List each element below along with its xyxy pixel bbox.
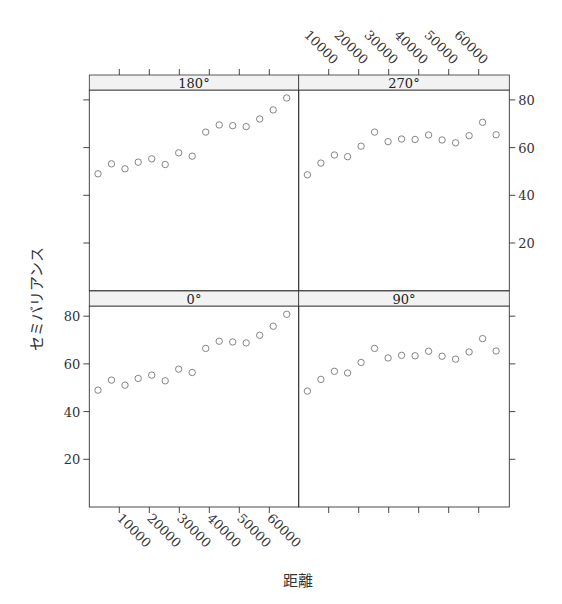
data-point — [493, 132, 499, 138]
data-point — [371, 129, 377, 135]
y-tick-label: 80 — [518, 93, 535, 108]
data-point — [466, 349, 472, 355]
data-point — [270, 323, 276, 329]
data-point — [331, 152, 337, 158]
panel-strips: 180°270°0°90° — [89, 75, 509, 307]
data-point — [149, 372, 155, 378]
panel-frame-top-left — [89, 90, 298, 291]
data-point — [243, 340, 249, 346]
data-point — [466, 132, 472, 138]
points-top-right — [304, 119, 499, 178]
panel-frame-bottom-left — [89, 306, 298, 507]
y-tick-label: 20 — [64, 452, 81, 467]
strip-label: 0° — [187, 292, 202, 307]
y-axis-title: セミバリアンス — [28, 247, 46, 351]
data-point — [216, 338, 222, 344]
data-point — [358, 143, 364, 149]
axes: 1000020000300004000050000600002040608010… — [64, 27, 535, 550]
strip-top-right: 270° — [299, 75, 510, 91]
data-point — [425, 132, 431, 138]
data-point — [230, 122, 236, 128]
y-tick-label: 20 — [518, 236, 535, 251]
y-tick-label: 60 — [518, 141, 535, 156]
data-point — [371, 345, 377, 351]
y-tick-label: 40 — [64, 405, 81, 420]
data-point — [216, 122, 222, 128]
data-point — [189, 369, 195, 375]
data-point — [122, 382, 128, 388]
data-point — [479, 119, 485, 125]
strip-label: 90° — [392, 292, 415, 307]
strip-top-left: 180° — [89, 75, 298, 91]
strip-bottom-right: 90° — [299, 291, 510, 307]
data-point — [398, 352, 404, 358]
data-point — [149, 156, 155, 162]
data-point — [243, 123, 249, 129]
data-point — [439, 353, 445, 359]
data-point — [304, 172, 310, 178]
data-point — [257, 116, 263, 122]
points-bottom-left — [95, 311, 290, 393]
points-bottom-right — [304, 335, 499, 394]
data-point — [162, 161, 168, 167]
x-tick-label: 60000 — [264, 511, 304, 551]
data-point — [493, 348, 499, 354]
x-tick-label: 60000 — [451, 27, 491, 67]
data-point — [135, 159, 141, 165]
panel-frame-bottom-right — [299, 306, 510, 507]
data-point — [176, 150, 182, 156]
data-point — [398, 136, 404, 142]
data-point — [176, 366, 182, 372]
data-point — [108, 161, 114, 167]
data-point — [122, 166, 128, 172]
y-tick-label: 80 — [64, 309, 81, 324]
data-point — [439, 137, 445, 143]
x-axis-title: 距離 — [283, 572, 313, 590]
data-point — [318, 160, 324, 166]
data-point — [412, 353, 418, 359]
data-point — [270, 107, 276, 113]
data-point — [331, 368, 337, 374]
data-point — [412, 136, 418, 142]
data-point — [452, 140, 458, 146]
data-point — [452, 356, 458, 362]
data-point — [203, 345, 209, 351]
data-point — [284, 311, 290, 317]
lattice-scatter-chart: 180°270°0°90° 10000200003000040000500006… — [0, 0, 562, 604]
y-tick-label: 60 — [64, 357, 81, 372]
strip-bottom-left: 0° — [89, 291, 298, 307]
points-top-left — [95, 95, 290, 177]
data-point — [162, 378, 168, 384]
data-point — [284, 95, 290, 101]
data-point — [344, 153, 350, 159]
data-point — [95, 387, 101, 393]
y-tick-label: 40 — [518, 188, 535, 203]
data-point — [344, 370, 350, 376]
data-point — [318, 376, 324, 382]
panel-frame-top-right — [299, 90, 510, 291]
data-point — [385, 355, 391, 361]
data-point — [230, 339, 236, 345]
data-point — [479, 335, 485, 341]
strip-label: 180° — [178, 76, 209, 91]
data-point — [358, 359, 364, 365]
data-point — [189, 153, 195, 159]
data-point — [203, 129, 209, 135]
strip-label: 270° — [388, 76, 419, 91]
data-point — [304, 388, 310, 394]
data-point — [385, 138, 391, 144]
data-point — [257, 332, 263, 338]
data-points — [95, 95, 500, 394]
data-point — [135, 375, 141, 381]
data-point — [95, 171, 101, 177]
data-point — [108, 377, 114, 383]
data-point — [425, 348, 431, 354]
